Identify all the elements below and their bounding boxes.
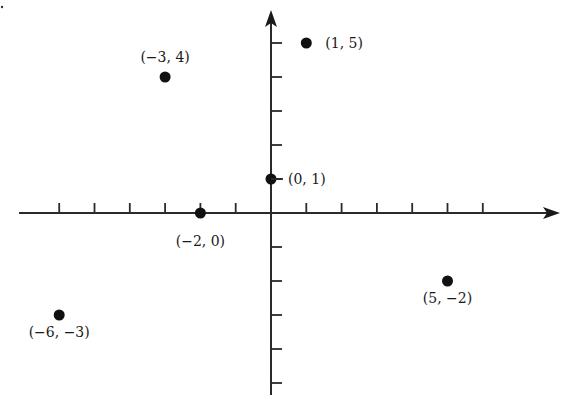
data-point: (−3, 4) bbox=[140, 49, 189, 83]
data-point: (−6, −3) bbox=[29, 310, 90, 341]
point-marker bbox=[195, 208, 206, 219]
point-label: (−3, 4) bbox=[140, 49, 189, 65]
point-marker bbox=[160, 72, 171, 83]
point-marker bbox=[54, 310, 65, 321]
point-label: (−6, −3) bbox=[29, 324, 90, 340]
artifact-dot bbox=[1, 6, 3, 8]
data-point: (1, 5) bbox=[301, 35, 363, 51]
point-label: (1, 5) bbox=[325, 35, 363, 51]
coordinate-plane: (−3, 4)(1, 5)(0, 1)(−2, 0)(5, −2)(−6, −3… bbox=[0, 0, 570, 404]
data-point: (5, −2) bbox=[423, 276, 472, 307]
data-points: (−3, 4)(1, 5)(0, 1)(−2, 0)(5, −2)(−6, −3… bbox=[29, 35, 473, 340]
point-label: (5, −2) bbox=[423, 290, 472, 306]
point-label: (0, 1) bbox=[288, 171, 326, 187]
point-marker bbox=[442, 276, 453, 287]
data-point: (0, 1) bbox=[266, 171, 326, 187]
axes bbox=[19, 10, 560, 395]
point-marker bbox=[301, 38, 312, 49]
point-label: (−2, 0) bbox=[176, 233, 225, 249]
